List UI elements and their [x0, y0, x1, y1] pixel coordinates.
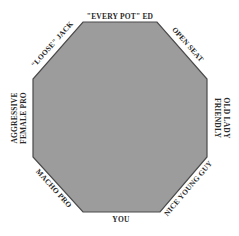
seat-label-right: FRIENDLY OLD LADY [213, 98, 231, 139]
seat-label-bottom: YOU [112, 215, 130, 224]
seat-label-left-line2: FEMALE PRO [19, 92, 28, 144]
poker-table-diagram: "EVERY POT" ED OPEN SEAT FRIENDLY OLD LA… [0, 0, 239, 236]
seat-label-top: "EVERY POT" ED [87, 12, 154, 21]
seat-label-right-line1: FRIENDLY [213, 98, 222, 138]
seat-label-right-line2: OLD LADY [222, 98, 231, 139]
seat-label-left-line1: AGGRESSIVE [10, 92, 19, 143]
seat-label-left: AGGRESSIVE FEMALE PRO [10, 92, 28, 144]
octagon-table [33, 22, 207, 212]
